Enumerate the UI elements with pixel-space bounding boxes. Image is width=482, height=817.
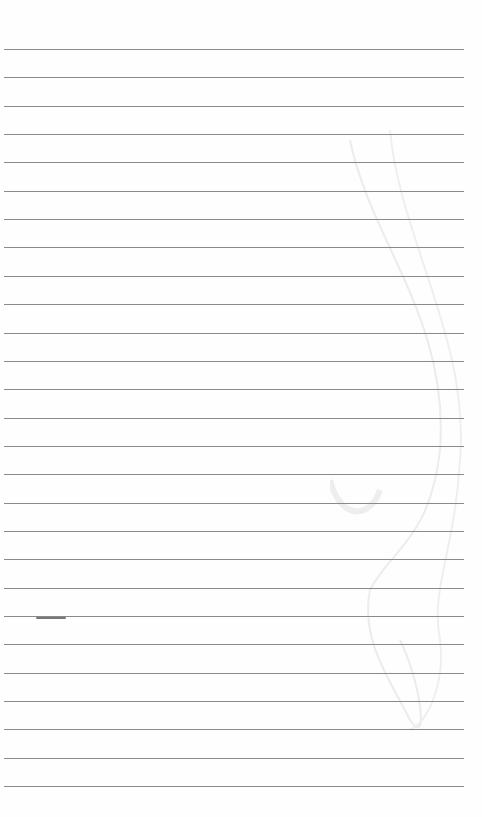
ruled-line [4, 616, 464, 617]
ruled-line [4, 474, 464, 475]
ruled-line [4, 191, 464, 192]
ruled-line [4, 106, 464, 107]
ruled-line [4, 333, 464, 334]
ruled-line [4, 531, 464, 532]
ruled-line [4, 49, 464, 50]
ruled-line [4, 247, 464, 248]
ruled-line [4, 729, 464, 730]
watermark-swirl-icon [330, 120, 480, 760]
ruled-line [4, 559, 464, 560]
ruled-line [4, 304, 464, 305]
ruled-line [4, 446, 464, 447]
ruled-line [4, 786, 464, 787]
ruled-line [4, 162, 464, 163]
ruled-line [4, 673, 464, 674]
ruled-line [4, 361, 464, 362]
lined-paper-page [0, 0, 482, 817]
ruled-line [4, 758, 464, 759]
ruled-line [4, 219, 464, 220]
ruled-line [4, 77, 464, 78]
ruled-line [4, 418, 464, 419]
ruled-line [4, 503, 464, 504]
ruled-line [4, 701, 464, 702]
ruled-line [4, 644, 464, 645]
ruled-line [4, 134, 464, 135]
ruled-line [4, 389, 464, 390]
ruled-line [4, 276, 464, 277]
ruled-line [4, 588, 464, 589]
ink-smudge [36, 617, 66, 619]
